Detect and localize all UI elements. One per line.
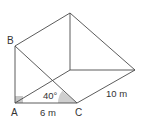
edge-top: [15, 13, 70, 46]
vertex-label-c: C: [75, 107, 82, 118]
prism-diagram: B A C 6 m 40° 10 m: [0, 0, 143, 122]
prism-svg: B A C 6 m 40° 10 m: [0, 0, 143, 122]
angle-label-c: 40°: [43, 90, 58, 101]
length-label-depth: 10 m: [106, 88, 127, 99]
length-label-ac: 6 m: [40, 107, 56, 118]
vertex-label-a: A: [11, 107, 18, 118]
angle-marker-c: [58, 91, 77, 103]
vertex-label-b: B: [7, 35, 14, 46]
edge-back-hypotenuse: [70, 13, 135, 70]
